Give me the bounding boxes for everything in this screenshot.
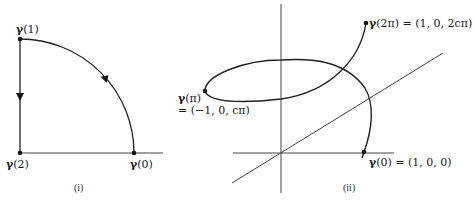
point-gamma1 [18,37,23,42]
label-gamma0-3d: γ(0) = (1, 0, 0) [369,156,452,169]
point-gamma0 [132,151,137,156]
label-gamma2: γ(2) [6,158,29,171]
helix-front [205,23,366,102]
point-gamma0-3d [362,150,367,155]
caption-ii: (ii) [343,182,355,194]
figure: γ(1) γ(2) γ(0) (i) γ(2π) = (1, 0, 2cπ) γ… [0,0,475,206]
caption-i: (i) [74,182,83,194]
arrow-up-arc-icon [101,75,110,83]
point-gammapi [203,89,208,94]
label-gamma1: γ(1) [16,23,39,36]
label-gamma0: γ(0) [130,158,153,171]
arc-gamma0-gamma1 [20,39,134,153]
point-gamma2 [18,151,23,156]
point-gamma2pi [364,21,369,26]
label-gamma2pi: γ(2π) = (1, 0, 2cπ) [369,17,472,30]
panel-ii: γ(2π) = (1, 0, 2cπ) γ(π) = (−1, 0, cπ) γ… [178,4,472,194]
arrow-down-icon [16,93,24,101]
label-gammapi-coords: = (−1, 0, cπ) [178,104,250,117]
panel-i: γ(1) γ(2) γ(0) (i) [6,23,163,194]
